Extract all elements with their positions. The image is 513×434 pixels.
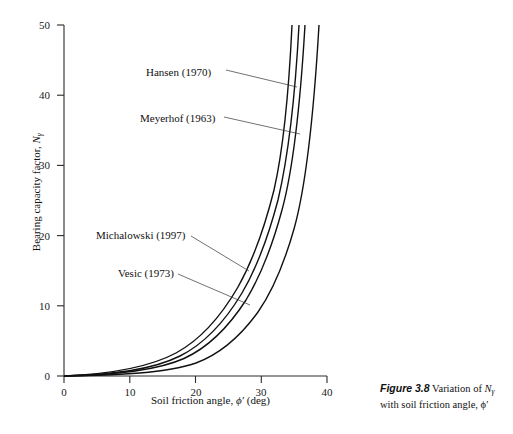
y-tick-label: 50 <box>28 19 50 31</box>
y-axis-subscript: γ <box>35 133 44 136</box>
figure-caption: Figure 3.8 Variation of Nγ with soil fri… <box>380 382 508 411</box>
x-axis-symbol: ϕ′ <box>236 394 244 406</box>
y-tick-label: 0 <box>28 370 50 382</box>
leader-meyerhof <box>224 117 300 134</box>
annotation-michalowski: Michalowski (1997) <box>96 229 186 241</box>
annotation-meyerhof: Meyerhof (1963) <box>140 112 215 124</box>
y-axis-title-text: Bearing capacity factor, <box>30 144 42 252</box>
y-axis-ticks <box>57 25 64 376</box>
x-tick-label: 40 <box>322 386 333 398</box>
figure-container: 50 40 30 20 10 0 0 10 20 30 40 Soil fric… <box>0 0 513 434</box>
y-axis-symbol: N <box>30 136 42 143</box>
x-axis-title-unit: (deg) <box>244 394 270 406</box>
figure-caption-symbol: N <box>485 383 492 394</box>
figure-caption-line1: Variation of <box>432 383 482 394</box>
figure-caption-number: Figure 3.8 <box>380 382 430 394</box>
leader-michalowski <box>191 236 249 271</box>
annotation-hansen: Hansen (1970) <box>146 66 211 78</box>
chart-plot-area <box>0 0 513 434</box>
x-axis-title-text: Soil friction angle, <box>151 394 236 406</box>
leader-hansen <box>226 70 297 87</box>
leader-vesic <box>178 274 250 305</box>
x-axis-ticks <box>64 376 327 383</box>
y-axis-title: Bearing capacity factor, Nγ <box>30 77 44 307</box>
figure-caption-line2: with soil friction angle, ϕ′ <box>380 399 488 410</box>
annotation-vesic: Vesic (1973) <box>118 267 174 279</box>
figure-caption-subscript: γ <box>492 387 495 396</box>
x-axis-title: Soil friction angle, ϕ′ (deg) <box>103 394 318 406</box>
x-tick-label: 0 <box>61 386 67 398</box>
